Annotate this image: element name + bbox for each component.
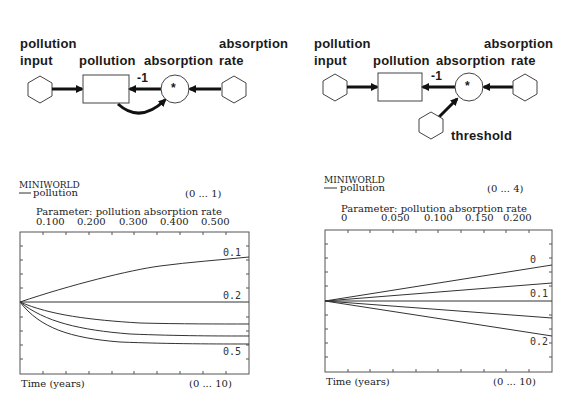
chart-right-legend: pollution bbox=[340, 182, 385, 193]
pollution-stock-box bbox=[378, 73, 422, 101]
curve-0.4 bbox=[20, 302, 249, 336]
chart-left-x-label: Time (years) bbox=[21, 378, 85, 389]
pollution-input-hexagon bbox=[323, 74, 347, 101]
curve-0.1 bbox=[20, 257, 249, 302]
multiply-symbol: * bbox=[171, 81, 176, 95]
label-absorption-rate-line2: rate bbox=[511, 53, 536, 68]
label-minus-one: -1 bbox=[431, 69, 442, 83]
label-threshold: threshold bbox=[451, 128, 512, 143]
absorption-rate-hexagon bbox=[222, 76, 246, 103]
curve-label: 0.1 bbox=[530, 288, 548, 299]
chart-left-param-value: 0.300 bbox=[119, 216, 148, 227]
chart-right-param-value: 0.200 bbox=[503, 212, 532, 223]
chart-right bbox=[325, 230, 552, 372]
chart-left-param-value: 0.100 bbox=[36, 216, 65, 227]
label-pollution-input-line1: pollution bbox=[314, 36, 371, 51]
curve-0 bbox=[325, 265, 552, 301]
chart-left-legend: pollution bbox=[33, 187, 78, 198]
curve-0.05 bbox=[325, 283, 552, 301]
chart-left-y-range: (0 ... 1) bbox=[185, 188, 221, 199]
chart-left-param-value: 0.400 bbox=[160, 216, 189, 227]
chart-left-x-range: (0 ... 10) bbox=[189, 378, 232, 389]
chart-right-param-value: 0.050 bbox=[381, 212, 410, 223]
label-pollution-stock: pollution bbox=[373, 53, 430, 68]
label-absorption: absorption bbox=[436, 53, 505, 68]
chart-frame bbox=[20, 232, 249, 374]
curve-label: 0.5 bbox=[223, 346, 241, 357]
chart-left bbox=[20, 232, 249, 374]
curve-0.2 bbox=[325, 301, 552, 336]
label-pollution-input-line2: input bbox=[20, 53, 53, 68]
chart-left-param-value: 0.200 bbox=[77, 216, 106, 227]
chart-right-param-value: 0 bbox=[341, 212, 347, 223]
curves bbox=[325, 265, 552, 336]
label-pollution-input-line2: input bbox=[314, 53, 347, 68]
label-absorption-rate-line2: rate bbox=[219, 53, 244, 68]
curve-label: 0.2 bbox=[223, 290, 241, 301]
curve-label: 0.1 bbox=[223, 247, 241, 258]
label-minus-one: -1 bbox=[137, 71, 148, 85]
curve-0.15 bbox=[325, 301, 552, 318]
curve-label: 0 bbox=[530, 254, 536, 265]
label-absorption: absorption bbox=[144, 53, 213, 68]
label-absorption-rate-line1: absorption bbox=[484, 36, 553, 51]
chart-right-param-value: 0.150 bbox=[465, 212, 494, 223]
curve-label: 0.2 bbox=[530, 336, 548, 347]
pollution-input-hexagon bbox=[28, 76, 52, 103]
chart-right-param-value: 0.100 bbox=[424, 212, 453, 223]
threshold-arrow bbox=[439, 99, 457, 117]
chart-right-y-range: (0 ... 4) bbox=[487, 183, 523, 194]
chart-right-x-label: Time (years) bbox=[326, 376, 390, 387]
label-pollution-stock: pollution bbox=[79, 53, 136, 68]
pollution-stock-box bbox=[83, 75, 129, 103]
absorption-rate-hexagon bbox=[513, 74, 537, 101]
multiply-symbol: * bbox=[465, 79, 470, 93]
label-pollution-input-line1: pollution bbox=[20, 36, 77, 51]
chart-right-x-range: (0 ... 10) bbox=[493, 376, 536, 387]
chart-left-param-value: 0.500 bbox=[201, 216, 230, 227]
label-absorption-rate-line1: absorption bbox=[219, 36, 288, 51]
curves bbox=[20, 257, 249, 344]
